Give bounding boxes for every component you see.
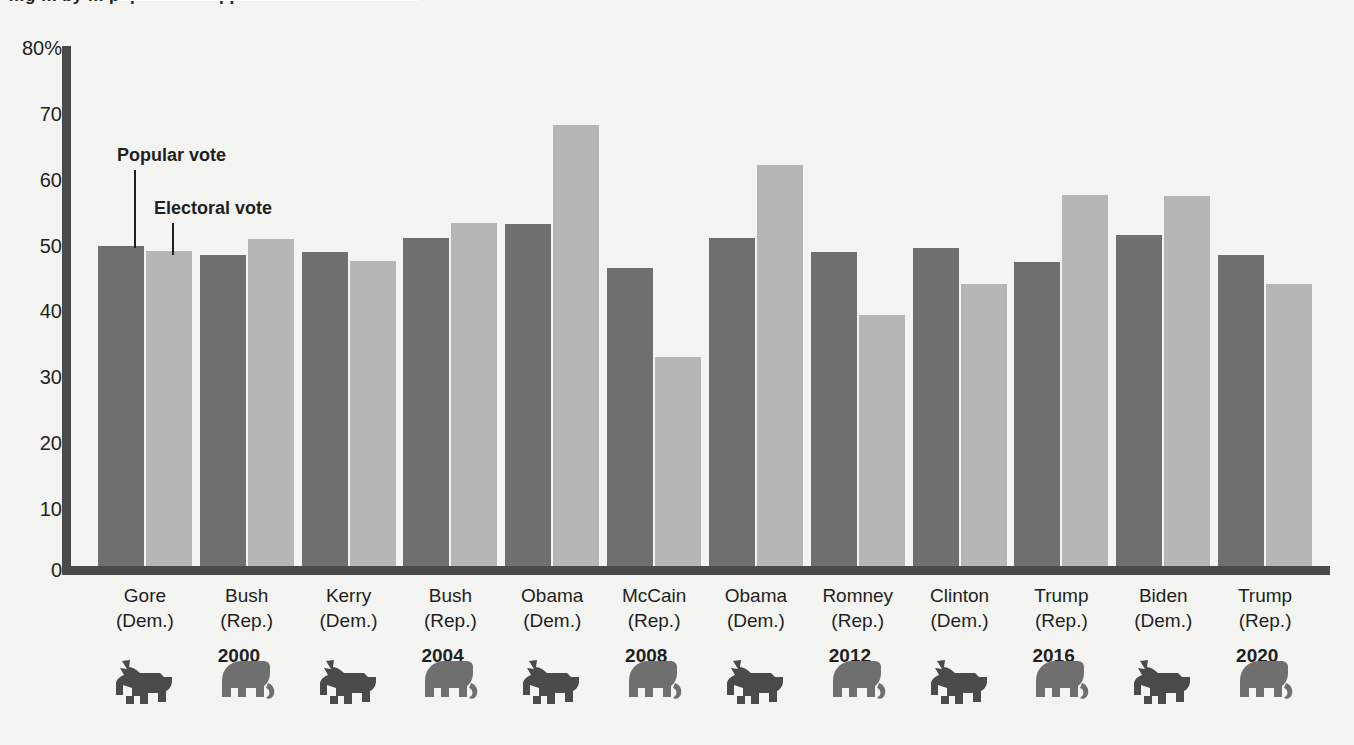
bar-electoral-bush-2000 <box>248 239 294 566</box>
plot-area: 80% 70 60 50 40 30 20 10 0 Popular vote … <box>0 0 1354 745</box>
donkey-icon <box>110 655 180 709</box>
bar-popular-biden-2020 <box>1116 235 1162 567</box>
candidate-name: Gore <box>124 585 166 606</box>
bar-electoral-clinton-2016 <box>961 284 1007 566</box>
bar-electoral-obama-2012 <box>757 165 803 566</box>
electoral-vote-callout-line <box>172 223 174 255</box>
bar-electoral-gore-2000 <box>146 251 192 566</box>
candidate-name: Obama <box>725 585 787 606</box>
bar-popular-romney-2012 <box>811 252 857 566</box>
bar-electoral-trump-2020 <box>1266 284 1312 566</box>
donkey-icon <box>1128 655 1198 709</box>
elephant-icon <box>1026 655 1096 709</box>
bar-electoral-obama-2008 <box>553 125 599 566</box>
bar-electoral-biden-2020 <box>1164 196 1210 566</box>
bar-electoral-bush-2004 <box>451 223 497 566</box>
candidate-name: Trump <box>1034 585 1088 606</box>
donkey-icon <box>925 655 995 709</box>
donkey-icon <box>314 655 384 709</box>
candidate-name: Kerry <box>326 585 371 606</box>
candidate-name: Romney <box>822 585 893 606</box>
bar-electoral-romney-2012 <box>859 315 905 566</box>
bar-popular-gore-2000 <box>98 246 144 566</box>
candidate-name: Bush <box>225 585 268 606</box>
candidate-name: McCain <box>622 585 686 606</box>
bar-popular-kerry-2004 <box>302 252 348 566</box>
elephant-icon <box>212 655 282 709</box>
bar-popular-mccain-2008 <box>607 268 653 566</box>
bar-popular-clinton-2016 <box>913 248 959 566</box>
candidate-name: Obama <box>521 585 583 606</box>
elephant-icon <box>415 655 485 709</box>
bars-layer <box>0 0 1354 745</box>
candidate-name: Bush <box>429 585 472 606</box>
donkey-icon <box>517 655 587 709</box>
bar-electoral-trump-2016 <box>1062 195 1108 566</box>
bar-popular-bush-2004 <box>403 238 449 566</box>
candidate-name: Clinton <box>930 585 989 606</box>
chart-figure: …g … by … popular … support … 80% 70 60 … <box>0 0 1354 745</box>
bar-electoral-mccain-2008 <box>655 357 701 566</box>
bar-popular-obama-2012 <box>709 238 755 566</box>
elephant-icon <box>1230 655 1300 709</box>
donkey-icon <box>721 655 791 709</box>
elephant-icon <box>823 655 893 709</box>
candidate-name: Biden <box>1139 585 1188 606</box>
bar-popular-trump-2020 <box>1218 255 1264 566</box>
bar-popular-bush-2000 <box>200 255 246 566</box>
bar-popular-obama-2008 <box>505 224 551 566</box>
elephant-icon <box>619 655 689 709</box>
bar-electoral-kerry-2004 <box>350 261 396 566</box>
x-label-trump-2020: Trump(Rep.) <box>1205 583 1325 633</box>
bar-popular-trump-2016 <box>1014 262 1060 566</box>
candidate-name: Trump <box>1238 585 1292 606</box>
popular-vote-callout-line <box>134 170 136 248</box>
popular-vote-callout-label: Popular vote <box>117 145 226 166</box>
electoral-vote-callout-label: Electoral vote <box>154 198 272 219</box>
candidate-party: (Rep.) <box>1205 608 1325 633</box>
